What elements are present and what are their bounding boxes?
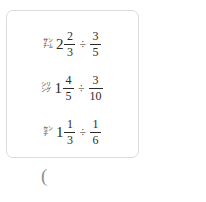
denominator: 5 (64, 90, 72, 103)
denominator: 5 (92, 46, 100, 59)
choice-marker-1: ㌠ (43, 39, 53, 49)
expression-2: 1 4 5 ÷ 3 10 (54, 74, 103, 103)
fraction-left: 1 3 (64, 118, 75, 147)
numerator: 3 (92, 74, 100, 87)
division-operator: ÷ (79, 126, 86, 138)
mixed-whole-number: 1 (54, 81, 62, 96)
choice-row: ㌢ 1 1 3 ÷ 1 6 (7, 115, 138, 149)
fraction-left: 4 5 (63, 74, 74, 103)
denominator: 3 (66, 134, 74, 147)
denominator: 3 (66, 46, 74, 59)
denominator: 10 (89, 90, 103, 103)
answer-open-paren: ( (41, 166, 47, 185)
division-operator: ÷ (79, 38, 86, 50)
numerator: 1 (92, 118, 100, 131)
math-choices-card: ㌠ 2 2 3 ÷ 3 5 ㌡ 1 4 5 ÷ (6, 10, 139, 158)
fraction-right: 3 5 (90, 30, 101, 59)
choice-row: ㌠ 2 2 3 ÷ 3 5 (7, 27, 138, 61)
mixed-whole-number: 2 (56, 37, 64, 52)
numerator: 2 (66, 30, 74, 43)
fraction-right: 1 6 (90, 118, 101, 147)
division-operator: ÷ (78, 82, 85, 94)
choice-marker-2: ㌡ (41, 83, 51, 93)
expression-3: 1 1 3 ÷ 1 6 (56, 118, 102, 147)
numerator: 1 (66, 118, 74, 131)
denominator: 6 (92, 134, 100, 147)
choice-marker-3: ㌢ (43, 127, 53, 137)
expression-1: 2 2 3 ÷ 3 5 (56, 30, 102, 59)
fraction-right: 3 10 (89, 74, 103, 103)
choice-row: ㌡ 1 4 5 ÷ 3 10 (7, 71, 138, 105)
numerator: 3 (92, 30, 100, 43)
numerator: 4 (64, 74, 72, 87)
mixed-whole-number: 1 (56, 125, 64, 140)
fraction-left: 2 3 (64, 30, 75, 59)
